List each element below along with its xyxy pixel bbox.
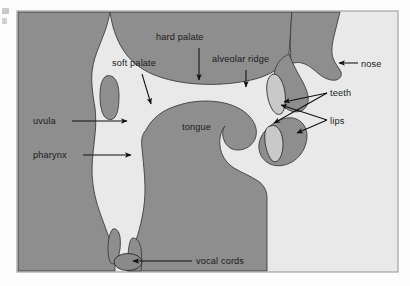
label-nose: nose [361, 59, 382, 69]
vocal-cords-glottis [114, 254, 142, 271]
label-tongue: tongue [182, 122, 211, 132]
label-lips: lips [330, 116, 345, 126]
label-uvula: uvula [33, 116, 56, 126]
label-alveolar-ridge: alveolar ridge [212, 54, 269, 64]
label-teeth: teeth [330, 88, 351, 98]
label-vocal-cords: vocal cords [196, 256, 244, 266]
page-bleed-marks: of f [2, 8, 10, 26]
uvula-tissue [100, 76, 119, 120]
label-pharynx: pharynx [33, 150, 67, 160]
label-hard-palate: hard palate [156, 32, 204, 42]
label-soft-palate: soft palate [112, 58, 156, 68]
figure-page: of f [0, 0, 410, 286]
vocal-tract-diagram: of f [0, 0, 410, 286]
